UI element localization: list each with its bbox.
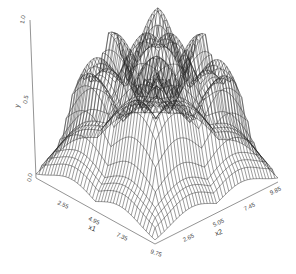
surface-plot: 1.0 0.5 y 0.0 2.55 4.95 x1 7.35 9.75 2.6…	[0, 0, 296, 274]
mesh-line	[149, 160, 272, 235]
z-axis-line	[30, 20, 36, 178]
x1-tick-2: 7.35	[116, 231, 130, 242]
z-tick-mid: 0.5	[22, 94, 29, 104]
z-tick-bottom: 0.0	[26, 172, 33, 182]
mesh-line	[61, 74, 180, 216]
x1-tick-3: 9.75	[150, 248, 164, 258]
x2-tick-2: 7.45	[243, 201, 257, 212]
mesh-line	[58, 74, 177, 220]
x2-tick-1: 5.05	[212, 217, 226, 228]
z-tick-top: 1.0	[19, 14, 26, 24]
x2-axis-label: x2	[214, 228, 223, 237]
mesh-line	[104, 45, 227, 202]
x1-tick-0: 2.55	[57, 199, 71, 210]
mesh-line	[94, 54, 213, 203]
x2-tick-0: 2.65	[182, 232, 196, 243]
mesh-line	[42, 157, 161, 235]
x2-tick-3: 9.85	[269, 185, 283, 196]
z-axis-label: y	[13, 103, 22, 108]
x1-axis-label: x1	[88, 223, 97, 232]
mesh-line	[96, 60, 219, 201]
wireframe-mesh	[36, 8, 278, 240]
